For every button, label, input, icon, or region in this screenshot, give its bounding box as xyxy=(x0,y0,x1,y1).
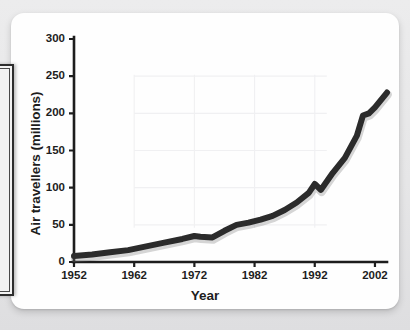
x-axis-tick-label: 1992 xyxy=(292,269,338,281)
line-chart-svg xyxy=(11,13,399,309)
x-axis-tick-label: 1972 xyxy=(171,269,217,281)
x-axis-title: Year xyxy=(11,288,399,303)
chart-plot-area: 050100150200250300 195219621972198219922… xyxy=(11,13,399,309)
y-axis-tick-label: 300 xyxy=(29,32,65,44)
x-axis-tick-label: 1982 xyxy=(232,269,278,281)
x-axis-tick-label: 1952 xyxy=(51,269,97,281)
y-axis-title: Air travellers (millions) xyxy=(28,54,43,274)
x-axis-tick-label: 1962 xyxy=(111,269,157,281)
x-axis-tick-label: 2002 xyxy=(352,269,398,281)
chart-card: 050100150200250300 195219621972198219922… xyxy=(11,13,399,309)
data-series-line xyxy=(74,93,388,259)
adjacent-panel-fragment xyxy=(0,64,14,296)
